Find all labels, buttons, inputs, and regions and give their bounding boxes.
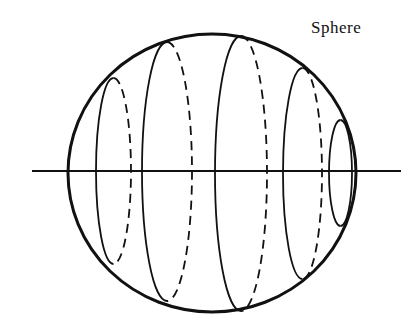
slice-back-arc [241,36,267,311]
slice-front-arc [283,68,303,279]
slice-front-arc [215,36,241,311]
slice-front-arc [329,120,341,226]
slice-back-arc [303,68,323,279]
diagram-title: Sphere [311,18,361,38]
sphere-diagram [0,0,418,323]
sphere-outline [68,34,356,312]
